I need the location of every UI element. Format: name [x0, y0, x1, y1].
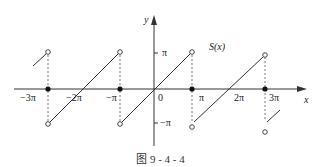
- y-axis-arrow-icon: [151, 15, 157, 25]
- x-tick-label-neg-3pi: −3π: [20, 93, 36, 103]
- x-tick-label-2pi: 2π: [234, 93, 244, 103]
- x-axis-label: x: [304, 95, 308, 105]
- x-tick-label-3pi: 3π: [269, 93, 279, 103]
- function-label: S(x): [209, 42, 225, 52]
- y-axis-label: y: [144, 15, 148, 25]
- y-tick-label-pi: π: [162, 48, 167, 58]
- sawtooth-diagram: [0, 0, 321, 167]
- y-tick-label-neg-pi: −π: [160, 118, 171, 128]
- x-axis-arrow-icon: [297, 86, 307, 92]
- x-tick-label-neg-2pi: −2π: [66, 93, 82, 103]
- sawtooth-segments: [33, 54, 280, 122]
- figure-caption: 图 9 - 4 - 4: [0, 150, 321, 166]
- x-tick-label-neg-pi: −π: [106, 93, 117, 103]
- origin-label: 0: [158, 93, 163, 103]
- x-tick-label-pi: π: [199, 93, 204, 103]
